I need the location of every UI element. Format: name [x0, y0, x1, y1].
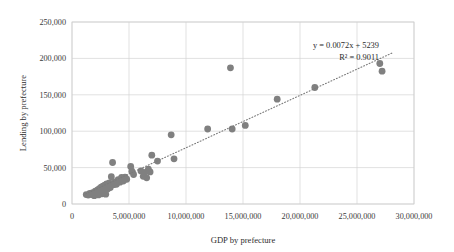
data-point — [148, 152, 155, 159]
x-tick-label: 25,000,000 — [339, 212, 376, 221]
x-tick-label: 0 — [70, 212, 74, 221]
trendline-equation-label: y = 0.0072x + 5239 — [313, 41, 379, 50]
data-point — [204, 126, 211, 133]
x-tick-label: 20,000,000 — [282, 212, 319, 221]
x-tick-label: 5,000,000 — [113, 212, 146, 221]
y-tick-label: 100,000 — [39, 127, 66, 136]
chart-canvas: 050,000100,000150,000200,000250,000 05,0… — [0, 0, 454, 252]
r-squared-label: R² = 0.9011 — [339, 53, 379, 62]
data-point — [168, 131, 175, 138]
y-tick-label: 50,000 — [43, 164, 66, 173]
data-point — [274, 96, 281, 103]
x-tick-label: 15,000,000 — [225, 212, 262, 221]
x-axis-title: GDP by prefecture — [211, 235, 276, 245]
data-point — [143, 174, 150, 181]
data-point — [147, 169, 154, 176]
data-point — [123, 176, 130, 183]
data-point — [109, 159, 116, 166]
x-tick-label: 30,000,000 — [396, 212, 433, 221]
y-tick-label: 150,000 — [39, 91, 66, 100]
x-tick-label: 10,000,000 — [168, 212, 205, 221]
data-point — [242, 122, 249, 129]
data-point — [130, 171, 137, 178]
scatter-chart: 050,000100,000150,000200,000250,000 05,0… — [0, 0, 454, 252]
data-point — [229, 126, 236, 133]
y-tick-label: 250,000 — [39, 18, 66, 27]
y-axis-title: Lending by prefecture — [18, 75, 28, 152]
data-point — [379, 68, 386, 75]
data-point — [171, 155, 178, 162]
y-tick-label: 200,000 — [39, 54, 66, 63]
data-point — [227, 64, 234, 71]
y-tick-label: 0 — [62, 200, 66, 209]
